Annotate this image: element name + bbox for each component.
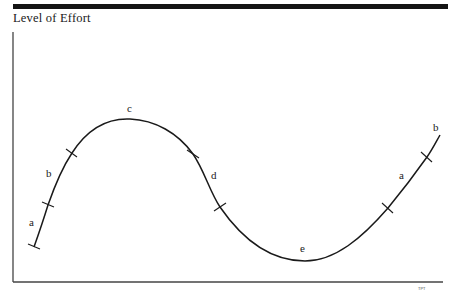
- tick-mark: [214, 203, 226, 211]
- phase-label-a-1: a: [29, 216, 34, 228]
- phase-label-a-2: a: [399, 169, 404, 181]
- effort-curve: [34, 119, 440, 261]
- effort-curve-plot: a b c d e a b: [0, 0, 456, 292]
- tick-mark: [421, 152, 432, 162]
- phase-label-b-2: b: [433, 121, 439, 133]
- phase-tick-marks: [28, 149, 432, 249]
- tick-mark: [187, 150, 199, 158]
- phase-label-e: e: [300, 242, 305, 254]
- phase-label-d: d: [211, 169, 217, 181]
- footnote-mark: TPT: [418, 286, 426, 291]
- tick-mark: [66, 149, 77, 157]
- phase-label-b-1: b: [46, 167, 52, 179]
- phase-label-c: c: [127, 102, 132, 114]
